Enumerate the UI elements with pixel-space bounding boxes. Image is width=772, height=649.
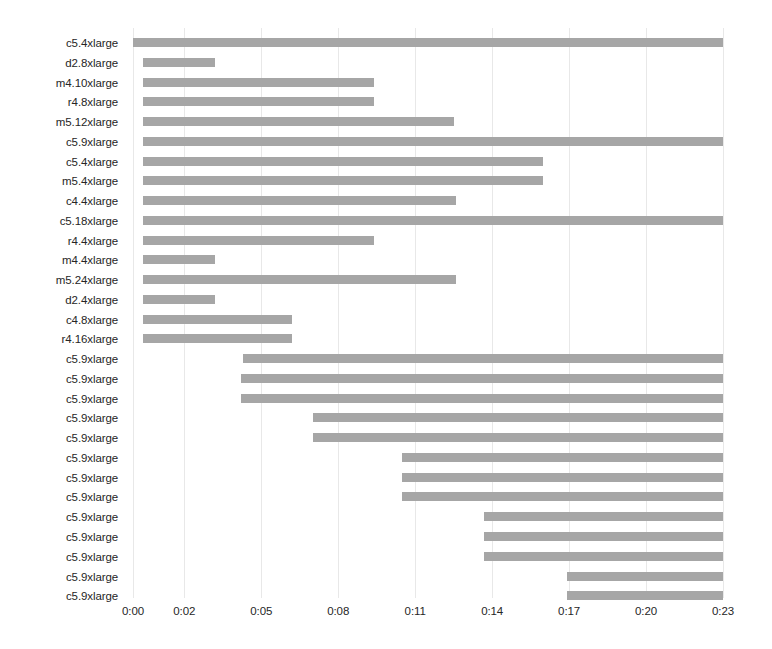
gantt-chart: c5.4xlarged2.8xlargem4.10xlarger4.8xlarg… (0, 0, 772, 649)
bar-row-4[interactable] (143, 97, 374, 106)
gridline-0-23 (723, 28, 724, 598)
category-label-row-2: d2.8xlarge (0, 57, 118, 69)
category-label-row-7: c5.4xlarge (0, 156, 118, 168)
category-label-row-4: r4.8xlarge (0, 96, 118, 108)
x-tick-label-0-11: 0:11 (405, 604, 426, 618)
category-label-row-25: c5.9xlarge (0, 511, 118, 523)
bar-row-13[interactable] (143, 275, 456, 284)
bar-row-20[interactable] (313, 413, 723, 422)
bar-row-24[interactable] (402, 492, 723, 501)
x-tick-label-0-02: 0:02 (173, 604, 195, 618)
category-label-row-9: c4.4xlarge (0, 195, 118, 207)
category-label-row-20: c5.9xlarge (0, 412, 118, 424)
category-label-row-5: m5.12xlarge (0, 116, 118, 128)
category-label-row-3: m4.10xlarge (0, 77, 118, 89)
gridline-0-08 (338, 28, 339, 598)
bar-row-3[interactable] (143, 78, 374, 87)
bar-row-1[interactable] (133, 38, 723, 47)
bar-row-26[interactable] (484, 532, 723, 541)
category-label-row-11: r4.4xlarge (0, 235, 118, 247)
bar-row-5[interactable] (143, 117, 453, 126)
bar-row-21[interactable] (313, 433, 723, 442)
bar-row-27[interactable] (484, 552, 723, 561)
category-label-row-27: c5.9xlarge (0, 551, 118, 563)
category-label-row-22: c5.9xlarge (0, 452, 118, 464)
plot-area (122, 28, 762, 598)
bar-row-7[interactable] (143, 157, 543, 166)
x-tick-label-0-20: 0:20 (635, 604, 657, 618)
category-label-row-28: c5.9xlarge (0, 571, 118, 583)
gridline-0-05 (261, 28, 262, 598)
x-tick-label-0-23: 0:23 (712, 604, 734, 618)
category-label-row-13: m5.24xlarge (0, 274, 118, 286)
bar-row-22[interactable] (402, 453, 723, 462)
category-label-row-18: c5.9xlarge (0, 373, 118, 385)
category-label-row-14: d2.4xlarge (0, 294, 118, 306)
category-label-row-23: c5.9xlarge (0, 472, 118, 484)
bar-row-28[interactable] (567, 572, 723, 581)
bar-row-25[interactable] (484, 512, 723, 521)
bar-row-17[interactable] (243, 354, 723, 363)
category-label-row-19: c5.9xlarge (0, 393, 118, 405)
bar-row-8[interactable] (143, 176, 543, 185)
category-label-row-24: c5.9xlarge (0, 491, 118, 503)
bar-row-16[interactable] (143, 334, 292, 343)
bar-row-23[interactable] (402, 473, 723, 482)
bar-row-15[interactable] (143, 315, 292, 324)
bar-row-11[interactable] (143, 236, 374, 245)
bar-row-18[interactable] (241, 374, 723, 383)
category-label-row-29: c5.9xlarge (0, 590, 118, 602)
x-tick-label-0-17: 0:17 (558, 604, 580, 618)
bar-row-12[interactable] (143, 255, 215, 264)
category-label-row-26: c5.9xlarge (0, 531, 118, 543)
gridline-0-11 (415, 28, 416, 598)
x-tick-label-0-08: 0:08 (327, 604, 349, 618)
gridline-0-02 (184, 28, 185, 598)
category-label-row-17: c5.9xlarge (0, 353, 118, 365)
x-tick-label-0-05: 0:05 (250, 604, 272, 618)
x-tick-label-0-00: 0:00 (122, 604, 144, 618)
gridline-0-00 (133, 28, 134, 598)
category-label-row-21: c5.9xlarge (0, 432, 118, 444)
bar-row-6[interactable] (143, 137, 723, 146)
category-label-row-8: m5.4xlarge (0, 175, 118, 187)
category-label-row-15: c4.8xlarge (0, 314, 118, 326)
bar-row-2[interactable] (143, 58, 215, 67)
category-label-row-16: r4.16xlarge (0, 333, 118, 345)
x-axis: 0:000:020:050:080:110:140:170:200:23 (122, 600, 762, 630)
bar-row-9[interactable] (143, 196, 456, 205)
x-tick-label-0-14: 0:14 (481, 604, 503, 618)
bar-row-10[interactable] (143, 216, 723, 225)
bar-row-14[interactable] (143, 295, 215, 304)
category-label-row-12: m4.4xlarge (0, 254, 118, 266)
category-axis-labels: c5.4xlarged2.8xlargem4.10xlarger4.8xlarg… (0, 28, 122, 598)
category-label-row-6: c5.9xlarge (0, 136, 118, 148)
category-label-row-10: c5.18xlarge (0, 215, 118, 227)
category-label-row-1: c5.4xlarge (0, 37, 118, 49)
bar-row-19[interactable] (241, 394, 723, 403)
bar-row-29[interactable] (567, 591, 723, 600)
